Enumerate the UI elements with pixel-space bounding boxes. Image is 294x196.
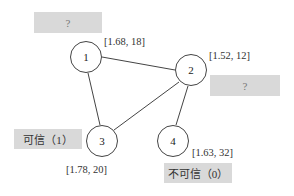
node1-label-box: ? [34, 12, 102, 33]
graph-node-1: 1 [70, 41, 102, 73]
graph-node-4: 4 [157, 125, 189, 157]
node1-attributes: [1.68, 18] [104, 36, 145, 47]
node3-attributes: [1.78, 20] [66, 164, 107, 175]
node2-label-box: ? [210, 75, 280, 96]
node-label: 2 [188, 64, 194, 76]
node4-label-box: 不可信（0） [164, 163, 232, 183]
edge-1-3 [88, 73, 100, 125]
graph-node-2: 2 [175, 54, 207, 86]
node4-attributes: [1.63, 32] [192, 147, 233, 158]
node-label: 1 [83, 51, 89, 63]
node2-attributes: [1.52, 12] [209, 50, 250, 61]
node3-label-box: 可信（1） [14, 129, 82, 149]
edge-2-3 [114, 82, 179, 130]
node-label: 4 [170, 135, 176, 147]
node-label: 3 [99, 135, 105, 147]
graph-node-3: 3 [86, 125, 118, 157]
edge-1-2 [102, 57, 175, 70]
edge-2-4 [176, 86, 188, 125]
